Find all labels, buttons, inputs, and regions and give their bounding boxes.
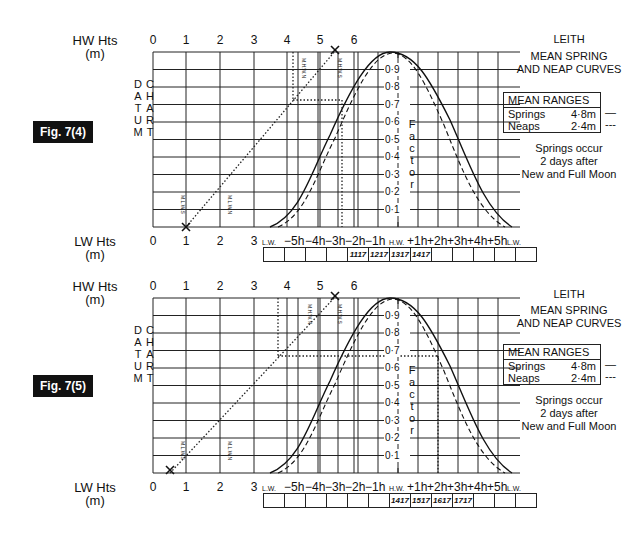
hw-tick: 2	[215, 34, 225, 47]
factor-tick: 0·3	[385, 168, 399, 181]
time-boxes-row: 1417 1517 1617 1717	[263, 493, 537, 508]
mhws-marker: M.H.W.S	[333, 58, 346, 78]
lw-tick: 3	[249, 481, 259, 494]
hw-tick: 3	[249, 280, 259, 293]
factor-tick: 0·6	[385, 115, 399, 128]
hw-tick: 5	[315, 280, 325, 293]
time-box	[495, 494, 516, 507]
springs-row: Springs4·8m	[504, 360, 600, 372]
springs-legend-line: —	[605, 358, 616, 370]
time-box	[516, 494, 536, 507]
hw-tick: 1	[181, 280, 191, 293]
factor-tick: 0·4	[385, 396, 399, 409]
curves-subtitle: MEAN SPRINGAND NEAP CURVES	[500, 304, 638, 330]
figure-tag: Fig. 7(5)	[33, 375, 93, 397]
time-box: 1717	[453, 494, 474, 507]
hw-tick: 0	[148, 280, 158, 293]
hw-tick: 4	[282, 34, 292, 47]
mhws-marker: M.H.W.S	[333, 304, 346, 324]
factor-tick: 0·4	[385, 150, 399, 163]
neaps-row: Neaps2·4m	[504, 120, 600, 132]
curves-subtitle: MEAN SPRINGAND NEAP CURVES	[500, 50, 638, 76]
chart-datum-label: CHART DATUM	[132, 324, 156, 444]
time-box: 1517	[411, 494, 432, 507]
figure-tag: Fig. 7(4)	[33, 121, 93, 143]
neaps-row: Neaps2·4m	[504, 372, 600, 384]
factor-tick: 0·2	[385, 185, 399, 198]
time-box	[474, 494, 495, 507]
factor-label: Factor	[406, 364, 418, 434]
mhwn-marker: M.H.W.N	[303, 304, 316, 324]
place-title: LEITH	[500, 288, 638, 301]
mlws-marker: M.L.W.S	[176, 195, 189, 214]
time-box	[369, 494, 390, 507]
factor-tick: 0·5	[385, 379, 399, 392]
lw-heights-label: LW Hts(m)	[60, 481, 130, 507]
chart-datum-label: CHART DATUM	[132, 78, 156, 198]
factor-tick: 0·3	[385, 414, 399, 427]
time-box	[327, 494, 348, 507]
time-box	[306, 494, 327, 507]
neaps-legend-line: ---	[605, 118, 616, 130]
mean-ranges-table: MEAN RANGES Springs4·8m Neaps2·4m	[503, 92, 601, 133]
springs-note: Springs occur2 days afterNew and Full Mo…	[500, 142, 638, 181]
factor-tick: 0·1	[385, 203, 399, 216]
mean-ranges-table: MEAN RANGES Springs4·8m Neaps2·4m	[503, 344, 601, 385]
hw-tick: 1	[181, 34, 191, 47]
hw-tick: 6	[349, 34, 359, 47]
time-box	[285, 494, 306, 507]
hw-tick: 5	[315, 34, 325, 47]
factor-tick: 0·1	[385, 449, 399, 462]
time-box: 1617	[432, 494, 453, 507]
hw-tick: 2	[215, 280, 225, 293]
time-box	[264, 494, 285, 507]
factor-tick: 0·8	[385, 80, 399, 93]
springs-legend-line: —	[605, 106, 616, 118]
hw-heights-label: HW Hts(m)	[60, 34, 130, 60]
factor-tick: 0·5	[385, 133, 399, 146]
ranges-header: MEAN RANGES	[504, 345, 600, 360]
lw-tick: 0	[148, 481, 158, 494]
factor-tick: 0·9	[385, 63, 399, 76]
factor-tick: 0·7	[385, 98, 399, 111]
factor-tick: 0·9	[385, 309, 399, 322]
mhwn-marker: M.H.W.N	[297, 58, 310, 78]
mlwn-marker: M.L.W.N	[223, 195, 236, 214]
time-box: 1417	[390, 494, 411, 507]
factor-label: Factor	[406, 118, 418, 188]
hw-tick: 4	[282, 280, 292, 293]
factor-tick: 0·8	[385, 326, 399, 339]
hw-tick: 0	[148, 34, 158, 47]
springs-row: Springs4·8m	[504, 108, 600, 120]
ranges-header: MEAN RANGES	[504, 93, 600, 108]
factor-tick: 0·2	[385, 431, 399, 444]
place-title: LEITH	[500, 33, 638, 46]
figure-7-4: HW Hts(m) LW Hts(m) 0 1 2 3 4 5 6 0 1 2 …	[0, 0, 638, 262]
lw-tick: 1	[181, 481, 191, 494]
hw-tick: 6	[349, 280, 359, 293]
lw-tick: 2	[215, 481, 225, 494]
hw-tick: 3	[249, 34, 259, 47]
figure-7-5: HW Hts(m) LW Hts(m) 0 1 2 3 4 5 6 0 1 2 …	[0, 246, 638, 508]
time-box	[348, 494, 369, 507]
hw-heights-label: HW Hts(m)	[60, 280, 130, 306]
springs-note: Springs occur2 days afterNew and Full Mo…	[500, 394, 638, 433]
factor-tick: 0·7	[385, 344, 399, 357]
mlws-marker: M.L.W.S	[176, 441, 189, 460]
factor-tick: 0·6	[385, 361, 399, 374]
mlwn-marker: M.L.W.N	[223, 441, 236, 460]
neaps-legend-line: ---	[605, 370, 616, 382]
